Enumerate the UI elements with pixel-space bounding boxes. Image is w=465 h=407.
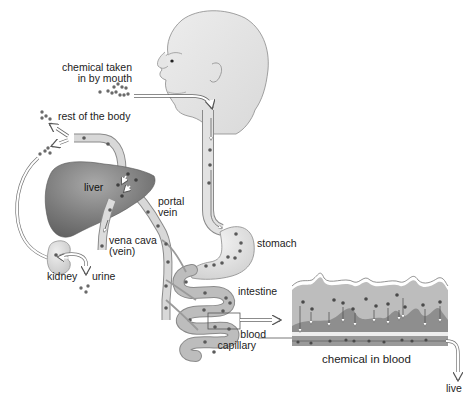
- label-intestine: intestine: [238, 286, 277, 297]
- label-urine: urine: [92, 271, 115, 282]
- label-stomach: stomach: [257, 238, 297, 249]
- label-chemical-in-blood: chemical in blood: [322, 354, 411, 365]
- label-kidney: kidney: [47, 271, 77, 282]
- chemical-particles-urine: [79, 284, 89, 293]
- chemical-particles-mouth: [98, 82, 129, 96]
- chemical-particles-body: [38, 110, 51, 155]
- label-rest-of-body: rest of the body: [58, 111, 130, 122]
- label-in-by-mouth: in by mouth: [62, 73, 132, 84]
- circulation-loop: [17, 158, 48, 258]
- label-capillary: capillary: [200, 340, 256, 351]
- label-liver-truncated: live: [446, 383, 462, 394]
- eye-icon: [170, 60, 173, 63]
- label-liver: liver: [84, 182, 103, 193]
- stomach: [190, 227, 254, 280]
- label-portal-vein: vein: [158, 207, 177, 218]
- label-vena-cava-vein: (vein): [109, 246, 135, 257]
